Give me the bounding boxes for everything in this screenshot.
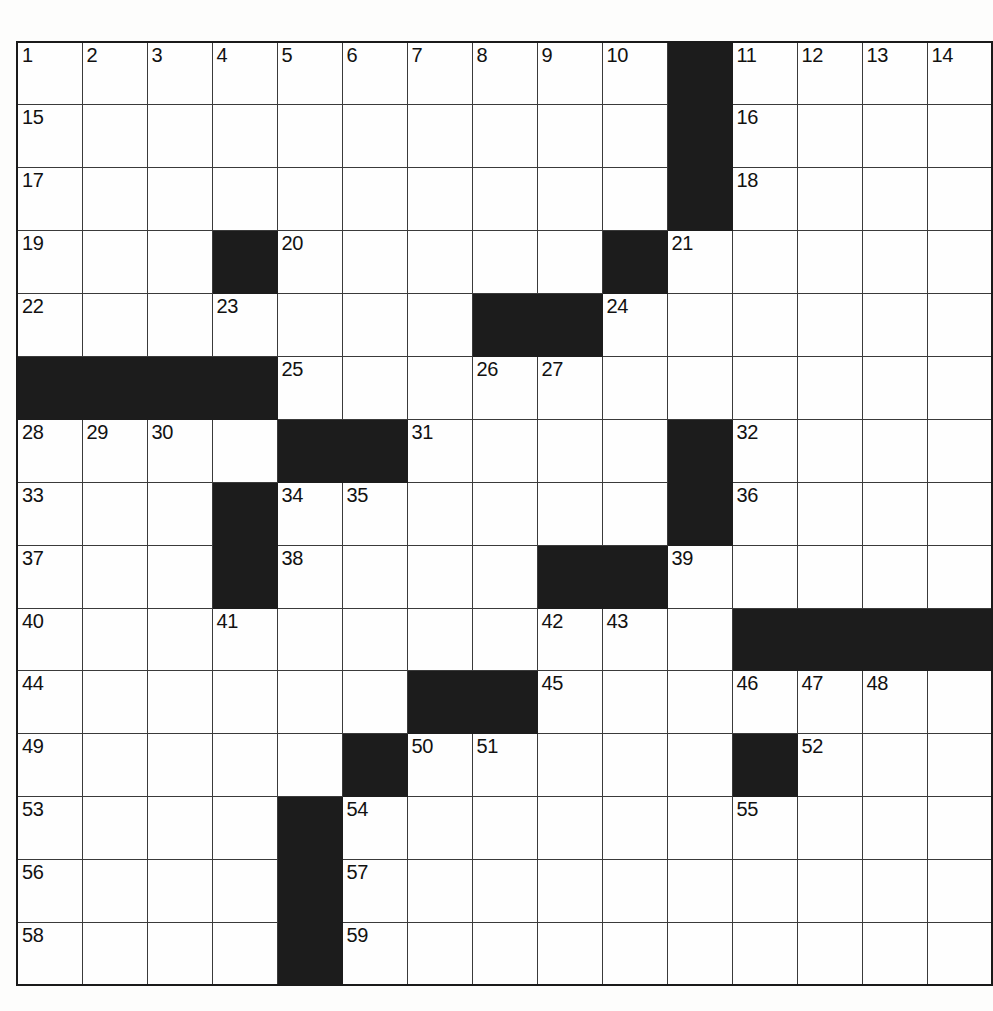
crossword-cell[interactable]: 31 (407, 419, 472, 482)
crossword-cell[interactable]: 21 (667, 231, 732, 294)
crossword-cell[interactable] (797, 168, 862, 231)
crossword-cell[interactable] (537, 860, 602, 923)
crossword-cell[interactable] (602, 734, 667, 797)
crossword-cell[interactable] (927, 671, 992, 734)
crossword-cell[interactable] (862, 482, 927, 545)
crossword-cell[interactable] (472, 608, 537, 671)
crossword-cell[interactable]: 58 (17, 922, 82, 985)
crossword-cell[interactable] (342, 294, 407, 357)
crossword-cell[interactable] (212, 168, 277, 231)
crossword-cell[interactable] (862, 294, 927, 357)
crossword-cell[interactable] (147, 608, 212, 671)
crossword-cell[interactable] (82, 168, 147, 231)
crossword-cell[interactable] (732, 294, 797, 357)
crossword-cell[interactable] (927, 419, 992, 482)
crossword-cell[interactable]: 46 (732, 671, 797, 734)
crossword-cell[interactable] (732, 922, 797, 985)
crossword-cell[interactable] (537, 231, 602, 294)
crossword-cell[interactable] (82, 922, 147, 985)
crossword-cell[interactable] (407, 482, 472, 545)
crossword-cell[interactable]: 8 (472, 42, 537, 105)
crossword-cell[interactable] (927, 860, 992, 923)
crossword-cell[interactable]: 54 (342, 797, 407, 860)
crossword-cell[interactable]: 11 (732, 42, 797, 105)
crossword-cell[interactable]: 25 (277, 356, 342, 419)
crossword-cell[interactable] (667, 734, 732, 797)
crossword-cell[interactable]: 10 (602, 42, 667, 105)
crossword-cell[interactable] (407, 168, 472, 231)
crossword-cell[interactable] (667, 671, 732, 734)
crossword-cell[interactable] (862, 168, 927, 231)
crossword-cell[interactable] (927, 231, 992, 294)
crossword-cell[interactable] (732, 545, 797, 608)
crossword-cell[interactable]: 48 (862, 671, 927, 734)
crossword-cell[interactable] (667, 356, 732, 419)
crossword-cell[interactable]: 2 (82, 42, 147, 105)
crossword-cell[interactable] (212, 105, 277, 168)
crossword-cell[interactable] (147, 231, 212, 294)
crossword-cell[interactable]: 55 (732, 797, 797, 860)
crossword-cell[interactable]: 59 (342, 922, 407, 985)
crossword-cell[interactable] (927, 105, 992, 168)
crossword-cell[interactable] (927, 734, 992, 797)
crossword-cell[interactable] (797, 797, 862, 860)
crossword-cell[interactable]: 27 (537, 356, 602, 419)
crossword-cell[interactable]: 47 (797, 671, 862, 734)
crossword-cell[interactable] (797, 860, 862, 923)
crossword-cell[interactable]: 53 (17, 797, 82, 860)
crossword-cell[interactable] (472, 231, 537, 294)
crossword-cell[interactable]: 9 (537, 42, 602, 105)
crossword-cell[interactable] (797, 922, 862, 985)
crossword-cell[interactable]: 18 (732, 168, 797, 231)
crossword-cell[interactable] (862, 860, 927, 923)
crossword-cell[interactable] (82, 671, 147, 734)
crossword-cell[interactable] (407, 922, 472, 985)
crossword-cell[interactable] (927, 356, 992, 419)
crossword-cell[interactable] (82, 797, 147, 860)
crossword-cell[interactable] (537, 419, 602, 482)
crossword-cell[interactable] (147, 922, 212, 985)
crossword-cell[interactable] (472, 482, 537, 545)
crossword-cell[interactable]: 17 (17, 168, 82, 231)
crossword-cell[interactable] (667, 608, 732, 671)
crossword-cell[interactable] (147, 482, 212, 545)
crossword-cell[interactable] (602, 482, 667, 545)
crossword-cell[interactable] (407, 231, 472, 294)
crossword-cell[interactable] (147, 734, 212, 797)
crossword-cell[interactable] (342, 231, 407, 294)
crossword-cell[interactable] (277, 671, 342, 734)
crossword-cell[interactable] (797, 482, 862, 545)
crossword-cell[interactable]: 7 (407, 42, 472, 105)
crossword-cell[interactable] (342, 545, 407, 608)
crossword-cell[interactable]: 56 (17, 860, 82, 923)
crossword-cell[interactable] (212, 671, 277, 734)
crossword-cell[interactable]: 52 (797, 734, 862, 797)
crossword-cell[interactable] (537, 168, 602, 231)
crossword-cell[interactable]: 44 (17, 671, 82, 734)
crossword-cell[interactable] (797, 356, 862, 419)
crossword-cell[interactable]: 23 (212, 294, 277, 357)
crossword-cell[interactable] (927, 545, 992, 608)
crossword-cell[interactable] (147, 294, 212, 357)
crossword-cell[interactable] (602, 105, 667, 168)
crossword-cell[interactable] (667, 294, 732, 357)
crossword-cell[interactable] (797, 231, 862, 294)
crossword-cell[interactable] (602, 419, 667, 482)
crossword-cell[interactable] (537, 734, 602, 797)
crossword-cell[interactable] (602, 356, 667, 419)
crossword-cell[interactable] (342, 105, 407, 168)
crossword-cell[interactable] (797, 545, 862, 608)
crossword-cell[interactable] (927, 294, 992, 357)
crossword-cell[interactable]: 51 (472, 734, 537, 797)
crossword-cell[interactable] (407, 545, 472, 608)
crossword-cell[interactable] (342, 608, 407, 671)
crossword-cell[interactable] (82, 860, 147, 923)
crossword-cell[interactable] (407, 105, 472, 168)
crossword-cell[interactable] (82, 734, 147, 797)
crossword-cell[interactable] (82, 608, 147, 671)
crossword-cell[interactable] (407, 608, 472, 671)
crossword-cell[interactable] (927, 168, 992, 231)
crossword-cell[interactable] (277, 294, 342, 357)
crossword-cell[interactable]: 20 (277, 231, 342, 294)
crossword-cell[interactable] (602, 797, 667, 860)
